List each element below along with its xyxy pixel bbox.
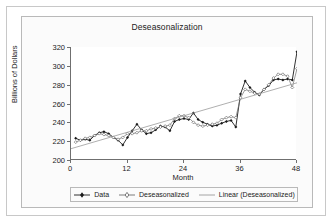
x-tick-label: 36 [228,164,252,173]
x-tick-mark [127,160,128,163]
legend-label-data: Data [94,191,109,198]
trendline [71,83,297,149]
data-point [291,86,294,89]
data-point [296,67,298,70]
data-point [220,122,223,125]
legend-marker-deseasonalized-icon [118,191,136,199]
x-tick-mark [240,160,241,163]
x-tick-label: 0 [58,164,82,173]
x-tick-label: 48 [284,164,308,173]
legend-marker-data-icon [73,191,91,199]
data-point [145,129,148,132]
data-point [102,133,105,136]
y-tick-label: 240 [39,118,65,127]
data-point [286,75,289,78]
x-tick-mark [70,160,71,163]
data-point [281,78,284,81]
data-point [230,115,233,118]
legend-item-linear-trend[interactable]: Linear (Deseasonalized) [198,191,295,199]
x-tick-label: 12 [115,164,139,173]
legend-label-deseasonalized: Deseasonalized [139,191,189,198]
legend-label-linear-trend: Linear (Deseasonalized) [219,191,295,198]
legend-marker-linear-icon [198,191,216,199]
data-point [225,120,228,123]
y-tick-label: 280 [39,80,65,89]
y-axis-title: Billions of Dollars [10,45,19,103]
x-tick-mark [296,160,297,163]
data-point [178,118,181,121]
data-point [277,78,280,81]
y-tick-label: 320 [39,43,65,52]
legend-item-deseasonalized[interactable]: Deseasonalized [118,191,189,199]
series-deseasonalized [74,67,297,143]
data-point [281,73,284,76]
legend-item-data[interactable]: Data [73,191,109,199]
data-point [291,78,294,81]
x-tick-mark [183,160,184,163]
data-point [88,136,91,139]
data-point [225,116,228,119]
data-point [135,131,138,134]
series-line [76,69,297,142]
series-linear-deseasonalized [71,83,297,149]
data-point [296,50,298,53]
x-tick-label: 24 [171,164,195,173]
data-point [248,90,251,93]
data-point [197,124,200,127]
data-point [150,127,153,130]
y-tick-label: 220 [39,137,65,146]
series-line [76,52,297,145]
figure-outer-frame: Deseasonalization Billions of Dollars 20… [6,6,326,216]
data-point [74,141,77,144]
plot-area [70,47,296,160]
data-point [74,137,77,140]
y-tick-label: 260 [39,99,65,108]
chart-legend: Data Deseasonalized Linear (Deseasonaliz… [70,187,298,202]
chart-title: Deseasonalization [22,22,312,32]
plot-svg [71,47,297,160]
x-axis-title: Month [70,173,296,182]
data-point [239,93,242,96]
chart-panel: Deseasonalization Billions of Dollars 20… [21,16,313,208]
y-tick-label: 300 [39,61,65,70]
data-point [79,139,82,142]
series-data [74,50,297,146]
data-point [201,125,204,128]
data-point [244,88,247,91]
